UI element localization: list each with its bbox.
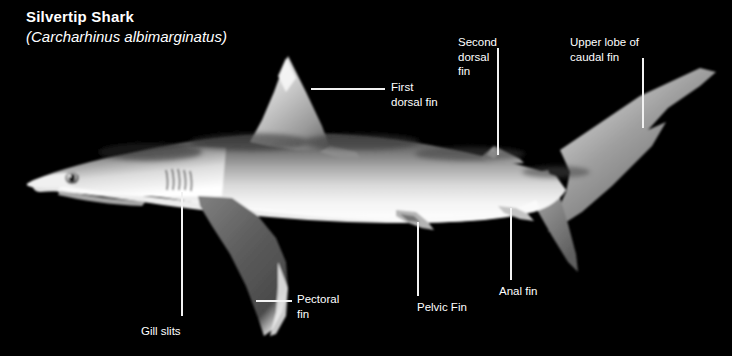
leader-line-anal-fin bbox=[510, 208, 512, 280]
label-first-dorsal-fin: First dorsal fin bbox=[391, 80, 438, 109]
label-pectoral-fin: Pectoral fin bbox=[297, 292, 339, 321]
scientific-name: (Carcharhinus albimarginatus) bbox=[26, 28, 227, 46]
label-second-dorsal-fin: Second dorsal fin bbox=[458, 35, 497, 79]
leader-line-gill-slits bbox=[181, 192, 183, 316]
label-anal-fin: Anal fin bbox=[499, 284, 537, 299]
shark-anatomy-figure: Silvertip Shark (Carcharhinus albimargin… bbox=[0, 0, 732, 356]
label-gill-slits: Gill slits bbox=[141, 324, 181, 339]
leader-line-pelvic-fin bbox=[417, 222, 419, 296]
leader-line-first-dorsal-fin bbox=[311, 88, 385, 90]
leader-line-second-dorsal-fin bbox=[497, 48, 499, 155]
figure-title: Silvertip Shark (Carcharhinus albimargin… bbox=[26, 8, 227, 47]
label-upper-lobe-caudal-fin: Upper lobe of caudal fin bbox=[570, 35, 639, 64]
leader-line-upper-lobe-caudal-fin bbox=[642, 58, 644, 128]
label-pelvic-fin: Pelvic Fin bbox=[417, 300, 467, 315]
leader-line-pectoral-fin bbox=[256, 300, 292, 302]
common-name: Silvertip Shark bbox=[26, 8, 227, 26]
